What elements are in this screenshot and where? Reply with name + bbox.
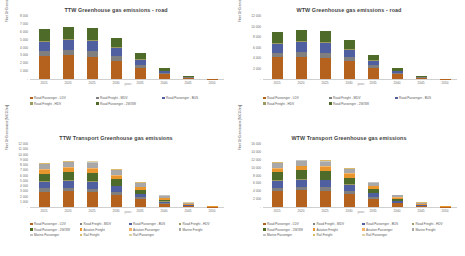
x-axis: 20152020202520302035204020452050: [32, 16, 224, 88]
legend-label: Marine Passenger: [267, 233, 292, 237]
x-axis-cell: 2035: [361, 144, 385, 216]
y-axis-tick-label: 6 000: [253, 181, 261, 185]
legend-swatch-icon: [329, 102, 332, 105]
x-axis-cell: 2015: [32, 16, 56, 88]
legend-item[interactable]: Aviation Passenger: [362, 228, 412, 232]
legend-item[interactable]: Aviation Passenger: [129, 228, 179, 232]
legend-item[interactable]: Road Freight - MDV: [96, 96, 162, 100]
x-axis-cell: 2020: [56, 144, 80, 216]
legend-item[interactable]: Road Freight - MDV: [329, 96, 395, 100]
legend-swatch-icon: [129, 228, 132, 231]
plot-area: -2 0004 0006 0008 00010 00012 000 201520…: [263, 16, 459, 128]
legend-label: Road Freight - MDV: [83, 222, 111, 226]
chart-title: TTW Greenhouse gas emissions - road: [0, 7, 232, 13]
legend-swatch-icon: [362, 223, 365, 226]
legend-swatch-icon: [129, 234, 132, 237]
legend-item[interactable]: Rail Passenger: [129, 233, 179, 237]
legend-item[interactable]: Road Passenger - 2W/3W: [30, 228, 80, 232]
plot-area: -1 0002 0003 0004 0005 0006 0007 0008 00…: [30, 144, 226, 256]
x-axis-cell: 2040: [152, 144, 176, 216]
legend-label: Aviation Freight: [83, 228, 104, 232]
legend-swatch-icon: [80, 228, 83, 231]
y-axis-tick-label: 5 000: [20, 38, 28, 42]
y-axis-tick-label: 5 000: [20, 179, 28, 183]
legend-item[interactable]: Road Passenger - 2W/3W: [329, 102, 395, 106]
legend-item[interactable]: Road Passenger - 2W/3W: [263, 228, 313, 232]
legend-swatch-icon: [30, 97, 33, 100]
legend-swatch-icon: [179, 228, 182, 231]
legend-item[interactable]: Road Passenger - BUS: [129, 222, 179, 226]
y-axis-tick-label: 16 000: [251, 142, 261, 146]
legend-item[interactable]: Marine Freight: [179, 228, 229, 232]
y-axis-tick-label: 4 000: [20, 46, 28, 50]
legend-item[interactable]: Road Freight - MDV: [80, 222, 130, 226]
legend-label: Road Passenger - LDV: [34, 96, 66, 100]
chart-legend: Road Passenger - LDVRoad Freight - MDVRo…: [30, 222, 228, 239]
legend-swatch-icon: [30, 102, 33, 105]
chart-legend: Road Passenger - LDVRoad Freight - MDVRo…: [30, 96, 228, 107]
legend-item[interactable]: Aviation Freight: [80, 228, 130, 232]
legend-item[interactable]: Rail Freight: [313, 233, 363, 237]
y-axis-title: Fleet GHG emissions [Mt CO2eq]: [5, 0, 9, 22]
legend-item[interactable]: Rail Freight: [80, 233, 130, 237]
chart-panel-wtw-transport: WTW Transport Greenhouse gas emissions F…: [233, 128, 465, 256]
legend-item[interactable]: Rail Passenger: [362, 233, 412, 237]
legend-item[interactable]: Road Passenger - LDV: [30, 222, 80, 226]
y-axis-tick-label: -: [260, 205, 261, 209]
legend-item[interactable]: Marine Passenger: [30, 233, 80, 237]
y-axis-tick-label: 14 000: [251, 150, 261, 154]
y-axis-tick-label: -: [27, 205, 28, 209]
y-axis-tick-label: 4 000: [20, 184, 28, 188]
chart-title: WTW Greenhouse gas emissions - road: [233, 7, 465, 13]
x-axis: 20152020202520302035204020452050: [265, 16, 457, 88]
x-axis-cell: 2040: [385, 16, 409, 88]
legend-label: Rail Freight: [83, 233, 99, 237]
y-axis-tick-label: 2 000: [253, 67, 261, 71]
x-axis-cell: 2045: [409, 16, 433, 88]
y-axis-tick-label: 12 000: [251, 158, 261, 162]
y-axis-tick-label: 6 000: [253, 46, 261, 50]
x-axis-cell: 2025: [80, 16, 104, 88]
legend-item[interactable]: Road Passenger - BUS: [395, 96, 461, 100]
chart-title: TTW Transport Greenhouse gas emissions: [0, 135, 232, 141]
legend-item[interactable]: Road Passenger - LDV: [263, 96, 329, 100]
legend-label: Rail Passenger: [366, 233, 387, 237]
y-axis-tick-label: 6 000: [20, 174, 28, 178]
x-axis-cell: 2020: [289, 16, 313, 88]
x-axis-cell: 2030: [337, 16, 361, 88]
legend-item[interactable]: Road Freight - HDV: [179, 222, 229, 226]
legend-label: Road Passenger - 2W/3W: [100, 102, 136, 106]
x-axis-cell: 2015: [265, 144, 289, 216]
legend-item[interactable]: Road Passenger - BUS: [162, 96, 228, 100]
x-axis-cell: 2050: [433, 16, 457, 88]
legend-swatch-icon: [313, 234, 316, 237]
legend-item[interactable]: Marine Passenger: [263, 233, 313, 237]
chart-legend: Road Passenger - LDVRoad Freight - MDVRo…: [263, 96, 461, 107]
legend-swatch-icon: [263, 234, 266, 237]
legend-swatch-icon: [263, 97, 266, 100]
x-axis-title: years: [30, 210, 226, 214]
legend-item[interactable]: Road Passenger - BUS: [362, 222, 412, 226]
legend-item[interactable]: Road Freight - HDV: [30, 102, 96, 106]
legend-item[interactable]: Road Freight - HDV: [263, 102, 329, 106]
legend-item[interactable]: Aviation Freight: [313, 228, 363, 232]
legend-swatch-icon: [30, 228, 33, 231]
legend-item[interactable]: Road Passenger - LDV: [263, 222, 313, 226]
legend-item[interactable]: Road Freight - MDV: [313, 222, 363, 226]
legend-label: Road Freight - HDV: [34, 102, 61, 106]
legend-item[interactable]: Road Passenger - 2W/3W: [96, 102, 162, 106]
x-axis-cell: 2030: [104, 16, 128, 88]
chart-panel-ttw-road: TTW Greenhouse gas emissions - road Flee…: [0, 0, 232, 128]
legend-item[interactable]: Marine Freight: [412, 228, 462, 232]
legend-label: Road Passenger - BUS: [366, 222, 398, 226]
legend-item[interactable]: Road Freight - HDV: [412, 222, 462, 226]
legend-label: Road Freight - MDV: [100, 96, 128, 100]
y-axis-tick-label: 9 000: [20, 158, 28, 162]
y-axis-tick-label: 12 000: [18, 142, 28, 146]
x-axis-cell: 2045: [409, 144, 433, 216]
x-axis-cell: 2050: [200, 144, 224, 216]
legend-swatch-icon: [395, 97, 398, 100]
legend-item[interactable]: Road Passenger - LDV: [30, 96, 96, 100]
y-axis-tick-label: 3 000: [20, 189, 28, 193]
legend-label: Road Freight - HDV: [182, 222, 209, 226]
